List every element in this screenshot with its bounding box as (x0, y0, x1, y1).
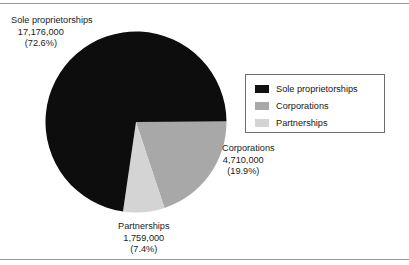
top-divider-rule (0, 3, 409, 4)
legend-item-sole-proprietorships: Sole proprietorships (255, 81, 384, 97)
legend-item-partnerships: Partnerships (255, 115, 384, 131)
pie-chart-figure: Sole proprietorships 17,176,000 (72.6%) … (0, 0, 409, 265)
callout-sole-percent: (72.6%) (11, 38, 93, 50)
callout-sole-proprietorships: Sole proprietorships 17,176,000 (72.6%) (11, 15, 93, 50)
callout-corporations-name: Corporations (222, 143, 275, 155)
legend-label-corporations: Corporations (276, 101, 329, 111)
callout-partnerships-value: 1,759,000 (118, 233, 170, 245)
legend-swatch-partnerships (255, 119, 269, 127)
callout-partnerships: Partnerships 1,759,000 (7.4%) (118, 221, 170, 256)
legend-swatch-sole-proprietorships (255, 85, 269, 93)
legend-label-sole-proprietorships: Sole proprietorships (276, 84, 358, 94)
callout-corporations-percent: (19.9%) (222, 166, 275, 178)
chart-legend: Sole proprietorships Corporations Partne… (245, 74, 385, 133)
callout-corporations-value: 4,710,000 (222, 155, 275, 167)
bottom-divider-rule (0, 259, 409, 260)
callout-corporations: Corporations 4,710,000 (19.9%) (222, 143, 275, 178)
pie-svg (45, 31, 227, 213)
legend-swatch-corporations (255, 102, 269, 110)
legend-item-corporations: Corporations (255, 98, 384, 114)
callout-sole-value: 17,176,000 (11, 27, 93, 39)
callout-sole-name: Sole proprietorships (11, 15, 93, 27)
callout-partnerships-percent: (7.4%) (118, 244, 170, 256)
pie-chart (45, 31, 227, 213)
callout-partnerships-name: Partnerships (118, 221, 170, 233)
legend-label-partnerships: Partnerships (276, 118, 328, 128)
